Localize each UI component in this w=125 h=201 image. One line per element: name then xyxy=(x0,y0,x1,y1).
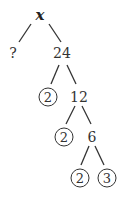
node-12: 12 xyxy=(70,90,88,104)
edge-24-2 xyxy=(51,65,59,84)
edge-6-2 xyxy=(81,146,89,165)
prime-node-3: 3 xyxy=(98,169,117,188)
edge-x-24 xyxy=(49,24,61,42)
factor-tree-diagram: x ? 24 2 12 2 6 2 3 xyxy=(0,0,125,201)
edge-12-2 xyxy=(66,106,75,124)
unknown-node: ? xyxy=(9,46,17,60)
edge-24-12 xyxy=(67,65,76,84)
edge-6-3 xyxy=(95,146,104,165)
node-6: 6 xyxy=(88,130,97,144)
prime-node-2: 2 xyxy=(55,128,74,147)
prime-node-2: 2 xyxy=(39,88,58,107)
edge-x-unknown xyxy=(19,24,31,42)
node-24: 24 xyxy=(53,46,71,60)
prime-node-2: 2 xyxy=(71,169,90,188)
edge-12-6 xyxy=(82,106,91,124)
root-node-x: x xyxy=(36,8,45,22)
